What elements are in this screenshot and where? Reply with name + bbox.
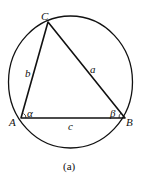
- triangle-circumcircle-diagram: C A B b a c α β (a): [0, 0, 142, 173]
- side-label-c: c: [68, 120, 73, 132]
- vertex-label-b: B: [126, 116, 133, 128]
- vertex-label-a: A: [8, 116, 16, 128]
- angle-label-alpha: α: [27, 107, 33, 119]
- angle-label-beta: β: [109, 107, 116, 119]
- side-label-b: b: [25, 67, 31, 79]
- triangle-abc: [21, 22, 125, 118]
- vertex-label-c: C: [41, 10, 49, 22]
- figure-caption: (a): [63, 160, 76, 173]
- side-label-a: a: [90, 63, 96, 75]
